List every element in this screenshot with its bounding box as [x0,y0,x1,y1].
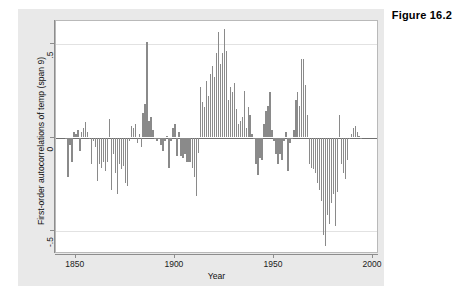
chart-bar [127,138,128,187]
chart-bar [176,138,177,157]
chart-bar [339,115,340,138]
chart-bar [164,138,165,142]
chart-bar [291,138,292,140]
chart-bar [107,138,108,162]
x-axis-tick [372,254,373,258]
chart-bar [307,115,308,138]
x-axis-tick [75,254,76,258]
chart-bar [198,138,199,153]
chart-bar [349,138,350,140]
chart-bar [141,138,142,147]
chart-bar [137,138,138,144]
chart-bar [337,138,338,192]
x-axis-tick-label: 2000 [352,259,392,269]
chart-bar [79,138,80,151]
gridline [56,44,377,45]
chart-bar [109,119,110,138]
chart-bar [135,124,136,137]
chart-plot-area [56,21,377,252]
chart-bar [91,138,92,164]
chart-bar [71,138,72,162]
chart-bar [347,138,348,161]
x-axis-line [55,254,378,255]
chart-bar [261,138,262,161]
x-axis-title: Year [55,271,378,281]
gridline [56,231,377,232]
chart-plot-frame [55,20,378,253]
figure-label: Figure 16.2 [392,9,452,21]
y-axis-tick-label: .5 [45,42,55,68]
x-axis-tick-label: 1900 [154,259,194,269]
chart-bar [77,130,78,138]
x-axis-tick-label: 1950 [253,259,293,269]
chart-bar [129,138,130,142]
chart-bar [271,130,272,138]
x-axis-tick [273,254,274,258]
chart-bar [360,138,361,140]
y-axis-tick-label: -.5 [45,229,55,255]
x-axis-tick [174,254,175,258]
chart-bar [283,138,284,142]
y-axis-tick-label: 0 [45,136,55,162]
chart-bar [174,124,175,137]
chart-bar [152,130,153,138]
chart-bar [170,138,171,142]
x-axis-tick-label: 1850 [55,259,95,269]
chart-bar [168,138,169,168]
